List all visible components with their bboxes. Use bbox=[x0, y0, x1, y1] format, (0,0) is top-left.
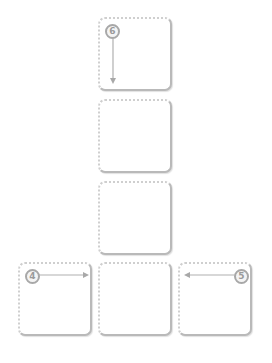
slot-mid-upper bbox=[98, 99, 172, 173]
arrow-right-icon bbox=[39, 270, 91, 280]
slot-bottom-center bbox=[98, 262, 172, 336]
step-badge-6: 6 bbox=[105, 24, 120, 39]
slot-top: 6 bbox=[98, 17, 172, 91]
arrow-left-icon bbox=[184, 270, 236, 280]
slot-mid-lower bbox=[98, 181, 172, 255]
step-badge-4: 4 bbox=[25, 269, 40, 284]
slot-bottom-right: 5 bbox=[178, 262, 252, 336]
step-badge-5: 5 bbox=[234, 269, 249, 284]
slot-bottom-left: 4 bbox=[18, 262, 92, 336]
arrow-down-icon bbox=[108, 38, 118, 86]
